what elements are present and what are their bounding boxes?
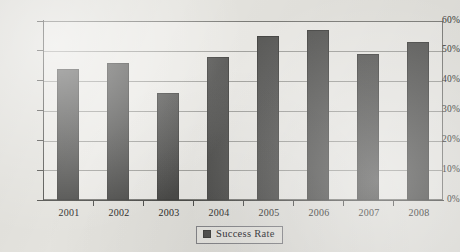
bar-2003 xyxy=(157,93,179,200)
bar-2006 xyxy=(307,30,329,200)
x-axis-label-2002: 2002 xyxy=(94,207,144,218)
x-axis-label-2007: 2007 xyxy=(344,207,394,218)
bar-2001 xyxy=(57,69,79,200)
y-axis-label-10: 10% xyxy=(424,165,460,175)
y-axis-label-50: 50% xyxy=(424,45,460,55)
x-tick-3 xyxy=(193,201,194,206)
x-axis-label-2005: 2005 xyxy=(244,207,294,218)
bar-2002 xyxy=(107,63,129,200)
y-tick-30 xyxy=(37,110,43,111)
y-tick-50 xyxy=(37,50,43,51)
bar-2004 xyxy=(207,57,229,200)
y-axis-label-60: 60% xyxy=(424,16,460,26)
y-axis-label-30: 30% xyxy=(424,105,460,115)
x-axis-label-2001: 2001 xyxy=(44,207,94,218)
legend-label-success-rate: Success Rate xyxy=(216,229,275,240)
x-tick-5 xyxy=(293,201,294,206)
x-tick-2 xyxy=(143,201,144,206)
gridline-10 xyxy=(44,170,442,171)
y-tick-10 xyxy=(37,170,43,171)
plot-area xyxy=(43,21,443,200)
gridline-40 xyxy=(44,81,442,82)
legend-swatch-icon xyxy=(203,230,211,238)
y-tick-0 xyxy=(37,200,43,201)
gridline-20 xyxy=(44,141,442,142)
x-axis-label-2004: 2004 xyxy=(194,207,244,218)
chart-figure: 60% 50% 40% 30% 20% 10% 0% 2001 2002 200… xyxy=(0,0,460,252)
y-axis-label-20: 20% xyxy=(424,135,460,145)
x-axis-label-2006: 2006 xyxy=(294,207,344,218)
x-tick-4 xyxy=(243,201,244,206)
bar-2008 xyxy=(407,42,429,200)
x-axis-label-2003: 2003 xyxy=(144,207,194,218)
y-tick-20 xyxy=(37,140,43,141)
y-tick-40 xyxy=(37,80,43,81)
x-tick-6 xyxy=(343,201,344,206)
gridline-30 xyxy=(44,111,442,112)
chart-legend: Success Rate xyxy=(196,226,283,244)
x-axis-label-2008: 2008 xyxy=(394,207,444,218)
y-axis-line xyxy=(43,20,44,201)
y-axis-label-40: 40% xyxy=(424,75,460,85)
bar-2007 xyxy=(357,54,379,200)
y-axis-label-0: 0% xyxy=(424,195,460,205)
bar-2005 xyxy=(257,36,279,200)
y-tick-60 xyxy=(37,21,43,22)
x-tick-7 xyxy=(393,201,394,206)
gridline-50 xyxy=(44,51,442,52)
x-tick-1 xyxy=(93,201,94,206)
